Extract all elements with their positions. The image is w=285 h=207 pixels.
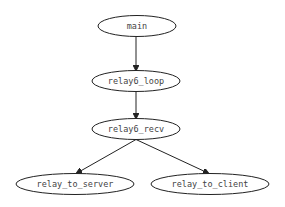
- node-relay-to-server-label: relay_to_server: [37, 179, 114, 189]
- node-main: main: [98, 16, 176, 37]
- call-graph-diagram: main relay6_loop relay6_recv relay_to_se…: [0, 0, 285, 207]
- node-relay6-recv-label: relay6_recv: [108, 124, 164, 134]
- node-relay-to-client-label: relay_to_client: [172, 179, 249, 189]
- node-main-label: main: [127, 21, 147, 31]
- node-relay-to-client: relay_to_client: [151, 174, 269, 195]
- node-relay-to-server: relay_to_server: [16, 174, 134, 195]
- node-relay6-loop-label: relay6_loop: [108, 76, 164, 86]
- edge-relay6-recv-to-relay-to-client: [136, 140, 208, 174]
- edge-relay6-recv-to-relay-to-server: [77, 140, 136, 174]
- node-relay6-recv: relay6_recv: [92, 119, 180, 140]
- node-relay6-loop: relay6_loop: [92, 71, 180, 92]
